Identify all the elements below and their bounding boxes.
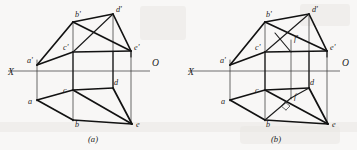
label-b: b — [75, 120, 79, 129]
label-o-axis-a: O — [152, 57, 159, 68]
horizontal-view-b — [230, 88, 328, 124]
label-b-b: b — [266, 120, 270, 129]
label-e-prime: e' — [134, 43, 140, 52]
label-b-d-prime: d' — [312, 5, 318, 14]
inner-box-a — [73, 51, 131, 90]
label-b-prime: b' — [75, 10, 81, 19]
label-d-prime: d' — [116, 5, 122, 14]
label-b-b-prime: b' — [266, 10, 272, 19]
horizontal-view-a — [37, 88, 132, 124]
label-b-c-prime: c' — [255, 43, 261, 52]
frontal-view-a — [37, 14, 131, 65]
label-c: c — [63, 86, 67, 95]
label-b-d: d — [310, 78, 315, 87]
frontal-view-b — [230, 14, 327, 65]
figure-root: a' b' c' d' e' a b c d e X O (a) — [0, 0, 357, 150]
label-b-c: c — [255, 86, 259, 95]
label-a: a — [28, 97, 32, 106]
label-a-prime: a' — [27, 56, 33, 65]
projection-drawing: a' b' c' d' e' a b c d e X O (a) — [0, 0, 357, 150]
inner-box-b — [265, 51, 327, 90]
label-b-a-prime: a' — [220, 56, 226, 65]
label-e: e — [136, 120, 140, 129]
label-b-a: a — [221, 97, 225, 106]
label-o-axis-b: O — [342, 57, 349, 68]
label-b-e-prime: e' — [330, 43, 336, 52]
label-b-f-prime: f' — [294, 34, 298, 43]
label-c-prime: c' — [63, 43, 69, 52]
caption-a: (a) — [88, 134, 98, 144]
label-b-f: f — [294, 92, 298, 101]
caption-b: (b) — [271, 134, 281, 144]
labels-a: a' b' c' d' e' a b c d e X O — [7, 5, 159, 129]
label-d: d — [114, 78, 119, 87]
label-x-axis-a: X — [7, 66, 15, 77]
label-x-axis-b: X — [187, 66, 195, 77]
label-b-e: e — [332, 120, 336, 129]
